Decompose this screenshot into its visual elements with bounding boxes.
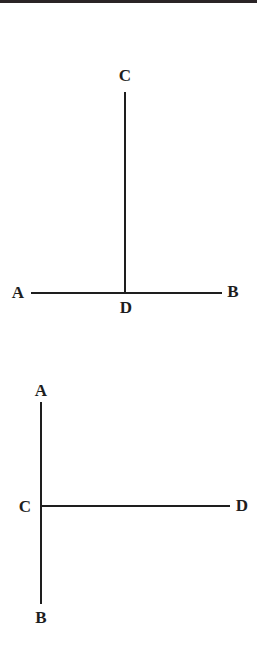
segment-ab-fig1 [31,292,222,294]
segment-ab-fig2 [40,402,42,604]
label-a-fig1: A [10,284,26,301]
label-c-fig2: C [17,498,33,515]
label-d-fig2: D [234,497,250,514]
segment-cd-fig2 [41,505,230,507]
label-b-fig2: B [33,609,49,626]
label-d-fig1: D [118,299,134,316]
segment-cd-fig1 [124,92,126,293]
top-border-bar [0,0,257,3]
label-b-fig1: B [225,283,241,300]
label-a-fig2: A [33,382,49,399]
label-c-fig1: C [117,67,133,84]
